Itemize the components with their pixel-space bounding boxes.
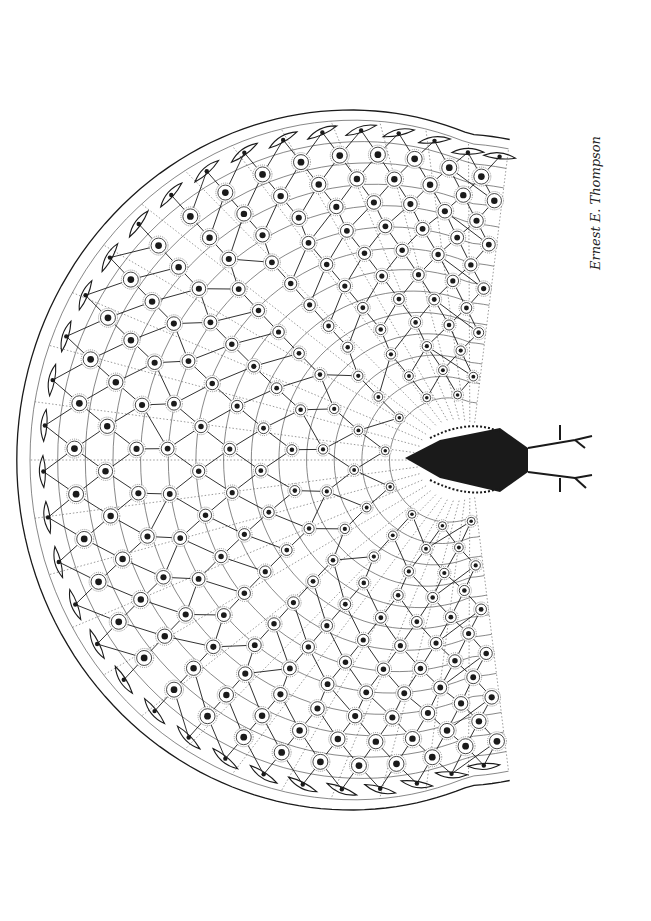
- eye-spot-center: [307, 302, 312, 307]
- eye-spot-center: [462, 743, 469, 750]
- eye-spot-center: [433, 641, 438, 646]
- eye-spot-center: [71, 445, 78, 452]
- eye-spot-center: [425, 344, 429, 348]
- feather-tip-eye: [281, 138, 285, 142]
- eye-spot-center: [105, 314, 112, 321]
- feather-tip: [308, 126, 337, 139]
- eye-spot: [412, 660, 428, 676]
- eye-spot-center: [306, 240, 312, 246]
- eye-spot-center: [155, 242, 162, 249]
- eye-spot-center: [139, 402, 145, 408]
- eye-spot-center: [258, 468, 263, 473]
- eye-spot: [235, 205, 253, 223]
- eye-spot-center: [332, 407, 336, 411]
- eye-spot-center: [196, 286, 202, 292]
- eye-spot: [368, 145, 387, 164]
- eye-spot: [253, 707, 271, 725]
- eye-spot: [472, 167, 491, 186]
- eye-spot-center: [373, 738, 379, 744]
- eye-spot-center: [203, 512, 208, 517]
- eye-spot-center: [389, 352, 393, 356]
- eye-spot-center: [343, 527, 347, 531]
- eye-spot-center: [432, 297, 437, 302]
- eye-spot: [357, 576, 371, 590]
- eye-spot-center: [356, 428, 360, 432]
- eye-spot: [472, 326, 486, 340]
- feather-tip: [213, 749, 238, 769]
- eye-spot: [394, 242, 410, 258]
- eye-spot-center: [362, 581, 367, 586]
- eye-spot: [402, 195, 420, 213]
- eye-spot-center: [398, 416, 402, 420]
- feather-tip-eye: [261, 772, 265, 776]
- eye-spot-center: [425, 396, 429, 400]
- eye-spot-center: [454, 235, 460, 241]
- eye-spot-center: [435, 252, 440, 257]
- eye-spot-center: [352, 713, 358, 719]
- eye-spot: [230, 281, 247, 298]
- eye-spot-center: [401, 690, 407, 696]
- eye-spot-center: [171, 401, 177, 407]
- eye-spot: [420, 542, 433, 555]
- feather-tip: [383, 129, 414, 137]
- eye-spot-center: [196, 576, 202, 582]
- eye-spot: [375, 661, 391, 677]
- eye-spot-center: [266, 510, 271, 515]
- eye-spot-center: [356, 762, 363, 769]
- eye-spot-center: [218, 554, 223, 559]
- eye-spot: [346, 707, 364, 725]
- feather-tip: [54, 546, 63, 577]
- eye-spot: [360, 501, 373, 514]
- eye-spot: [355, 300, 370, 315]
- eye-spot: [177, 606, 195, 624]
- eye-spot: [485, 192, 503, 210]
- eye-spot-center: [474, 563, 478, 567]
- eye-spot-center: [344, 228, 350, 234]
- eye-spot-center: [298, 159, 305, 166]
- eye-spot: [367, 550, 380, 563]
- eye-spot-center: [391, 176, 397, 182]
- feather-tip: [115, 666, 132, 693]
- eye-spot: [122, 331, 140, 349]
- feather-tip: [231, 143, 257, 162]
- eye-spot: [402, 565, 415, 578]
- eye-spot: [229, 398, 245, 414]
- eye-spot-center: [314, 705, 320, 711]
- eye-spot-center: [209, 381, 214, 386]
- eye-spot: [205, 638, 223, 656]
- eye-spot-center: [259, 171, 266, 178]
- eye-spot: [367, 733, 385, 751]
- eye-spot: [452, 389, 464, 401]
- eye-spot-center: [296, 215, 302, 221]
- peacock-drawing: [0, 0, 651, 921]
- eye-spot: [283, 275, 299, 291]
- feather-tip: [327, 783, 357, 795]
- eye-spot-center: [171, 686, 178, 693]
- eye-spot-center: [263, 569, 268, 574]
- feather-tip: [468, 763, 500, 769]
- feather-tip: [452, 148, 484, 154]
- feather-tip: [401, 781, 433, 788]
- eye-spot: [96, 462, 114, 480]
- eye-spot-center: [427, 182, 433, 188]
- eye-spot: [146, 354, 164, 372]
- feather-tip-eye: [497, 155, 501, 159]
- eye-spot: [161, 486, 178, 503]
- eye-spot: [135, 648, 154, 667]
- feather-tip: [346, 125, 376, 135]
- eye-spot: [374, 268, 390, 284]
- eye-spot-center: [447, 323, 452, 328]
- eye-spot-center: [376, 395, 380, 399]
- eye-spot: [272, 686, 290, 704]
- feather-tip-eye: [205, 169, 209, 173]
- eye-spot: [449, 229, 466, 246]
- eye-spot-center: [399, 248, 404, 253]
- eye-spot-center: [363, 689, 369, 695]
- eye-spot-center: [298, 408, 303, 413]
- eye-spot: [445, 273, 461, 289]
- feather-tip: [90, 630, 104, 659]
- eye-spot-center: [306, 644, 311, 649]
- feather-tip: [41, 410, 47, 442]
- eye-spot: [409, 315, 423, 329]
- eye-spot-center: [378, 327, 383, 332]
